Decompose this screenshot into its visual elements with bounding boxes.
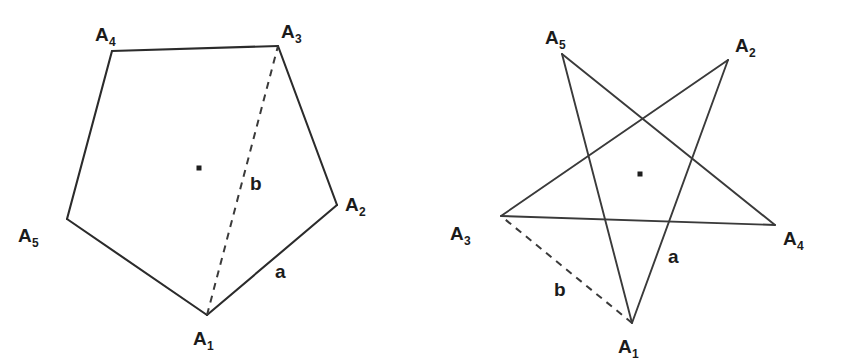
pentagon-label-a4-subscript: 4	[109, 35, 116, 49]
pentagram-label-a5-subscript: 5	[559, 38, 566, 52]
pentagram-vertex-label-a4: A 4	[783, 228, 804, 253]
pentagram-center-dot	[638, 172, 643, 177]
pentagram-label-a1-subscript: 1	[632, 347, 639, 361]
pentagon-label-a5-subscript: 5	[32, 236, 39, 250]
pentagram-edge-a3-a4	[501, 216, 775, 225]
pentagon-edge-a2-a3	[278, 46, 337, 205]
pentagon-label-a1-subscript: 1	[207, 339, 214, 353]
pentagon-dashed-diagonal-a1-a3	[207, 46, 278, 315]
pentagon-solid-edges	[67, 46, 337, 315]
pentagon-vertex-label-a2: A 2	[345, 194, 366, 219]
pentagon-vertex-label-a4: A 4	[95, 24, 116, 49]
pentagram-label-a2-subscript: 2	[749, 46, 756, 60]
pentagram-edge-a1-a2	[632, 60, 728, 323]
pentagram-label-a4-subscript: 4	[797, 239, 804, 253]
pentagon-edge-a5-a1	[67, 219, 207, 315]
pentagon-vertex-label-a5: A 5	[18, 225, 39, 250]
pentagram-vertex-label-a5: A 5	[545, 27, 566, 52]
pentagon-side-label-a: a	[275, 261, 286, 282]
pentagon-label-a2-letter: A	[345, 194, 359, 215]
pentagon-label-a1-letter: A	[193, 328, 207, 349]
pentagram-dashed-segment-a1-a3	[501, 216, 632, 323]
pentagon-label-a5-letter: A	[18, 225, 32, 246]
pentagram-edge-a4-a5	[562, 54, 775, 225]
figure-root: A 1 A 2 A 3 A 4 A 5 a b	[0, 0, 841, 361]
pentagon-label-a2-subscript: 2	[359, 205, 366, 219]
pentagon-edge-a1-a2	[207, 205, 337, 315]
pentagon-panel: A 1 A 2 A 3 A 4 A 5 a b	[18, 21, 366, 353]
pentagram-edge-a2-a3	[501, 60, 728, 216]
pentagram-label-a2-letter: A	[735, 35, 749, 56]
pentagram-vertex-label-a2: A 2	[735, 35, 756, 60]
pentagon-vertex-label-a3: A 3	[281, 21, 302, 46]
pentagon-edge-a3-a4	[112, 46, 278, 51]
pentagram-solid-edges	[501, 54, 775, 323]
pentagram-label-a3-subscript: 3	[464, 234, 471, 248]
pentagram-label-a4-letter: A	[783, 228, 797, 249]
pentagram-label-a5-letter: A	[545, 27, 559, 48]
pentagram-segment-label-b: b	[554, 279, 566, 300]
pentagram-edge-a5-a1	[562, 54, 632, 323]
pentagram-panel: A 1 A 2 A 3 A 4 A 5 a b	[450, 27, 804, 361]
pentagon-label-a3-letter: A	[281, 21, 295, 42]
pentagon-diagonal-label-b: b	[250, 173, 262, 194]
pentagram-vertex-label-a1: A 1	[618, 336, 639, 361]
pentagram-label-a3-letter: A	[450, 223, 464, 244]
pentagon-center-dot	[197, 166, 202, 171]
pentagram-vertex-label-a3: A 3	[450, 223, 471, 248]
pentagon-edge-a4-a5	[67, 51, 112, 219]
pentagon-label-a3-subscript: 3	[295, 32, 302, 46]
pentagon-label-a4-letter: A	[95, 24, 109, 45]
pentagon-vertex-label-a1: A 1	[193, 328, 214, 353]
pentagram-label-a1-letter: A	[618, 336, 632, 357]
pentagram-side-label-a: a	[668, 246, 679, 267]
geometry-figure: A 1 A 2 A 3 A 4 A 5 a b	[0, 0, 841, 361]
